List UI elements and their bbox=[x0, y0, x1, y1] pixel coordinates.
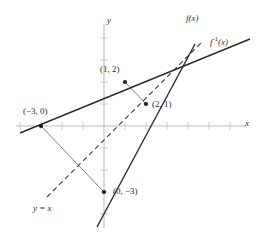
point-markers bbox=[39, 80, 148, 194]
curve-label-f: f(x) bbox=[186, 14, 199, 23]
f-inverse-argument: (x) bbox=[218, 37, 228, 47]
x-axis-label: x bbox=[245, 119, 249, 128]
point-label-1-2: (1, 2) bbox=[100, 65, 120, 74]
marker-neg3-0 bbox=[39, 124, 43, 128]
curve-label-f-inverse: f-1(x) bbox=[210, 36, 228, 47]
connector-neg3-0-to-0-neg3 bbox=[41, 126, 104, 192]
reflection-connectors bbox=[41, 82, 146, 192]
point-label-neg3-0: (−3, 0) bbox=[23, 107, 48, 116]
marker-0-neg3 bbox=[102, 190, 106, 194]
inverse-function-graph: y x f(x) f-1(x) y = x (1, 2) (2, 1) (−3,… bbox=[0, 0, 266, 243]
marker-2-1 bbox=[144, 102, 148, 106]
y-axis-label: y bbox=[107, 16, 111, 25]
marker-1-2 bbox=[123, 80, 127, 84]
identity-line-label: y = x bbox=[33, 204, 52, 213]
curve-f-inverse bbox=[20, 39, 250, 133]
point-label-2-1: (2, 1) bbox=[152, 100, 172, 109]
point-label-0-neg3: (0, −3) bbox=[113, 187, 138, 196]
